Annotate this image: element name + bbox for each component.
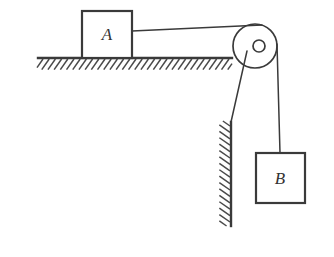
pulley-axle-circle xyxy=(253,40,265,52)
rope-vertical-pulley-to-b xyxy=(277,44,280,153)
pulley-outer-circle xyxy=(233,24,277,68)
block-a-label: A xyxy=(101,25,113,44)
physics-diagram-canvas: A B xyxy=(0,0,334,257)
physics-diagram: A B xyxy=(0,0,334,257)
ground-hatching xyxy=(37,59,232,70)
block-b-label: B xyxy=(275,169,286,188)
wall-hatching xyxy=(219,121,230,226)
